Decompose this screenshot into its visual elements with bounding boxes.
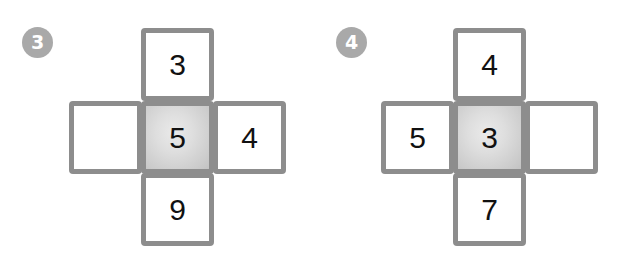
puzzle-item-2: 4 4 5 3 7 <box>314 0 629 267</box>
cell-left[interactable]: 5 <box>381 101 454 174</box>
puzzle-item-1: 3 3 5 4 9 <box>0 0 315 267</box>
cell-bottom[interactable]: 7 <box>453 173 526 246</box>
cell-center[interactable]: 5 <box>141 101 214 174</box>
puzzle-number-badge: 4 <box>336 27 367 58</box>
worksheet-canvas: 3 3 5 4 9 4 4 5 3 7 <box>0 0 629 267</box>
cell-center[interactable]: 3 <box>453 101 526 174</box>
puzzle-number-badge: 3 <box>22 27 53 58</box>
cell-right[interactable] <box>525 101 598 174</box>
cell-right[interactable]: 4 <box>213 101 286 174</box>
cross-grid: 3 5 4 9 <box>68 28 288 248</box>
cross-grid: 4 5 3 7 <box>380 28 600 248</box>
cell-top[interactable]: 3 <box>141 28 214 101</box>
cell-left[interactable] <box>69 101 142 174</box>
cell-top[interactable]: 4 <box>453 28 526 101</box>
cell-bottom[interactable]: 9 <box>141 173 214 246</box>
